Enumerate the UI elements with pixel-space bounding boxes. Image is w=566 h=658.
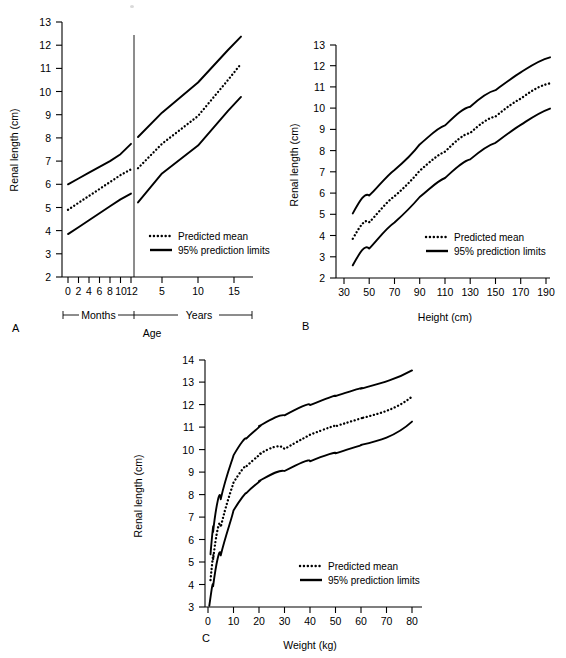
panel-b-svg: Renal length (cm) 2 3 4 5 6 7 8 9 10 11 … [280, 0, 566, 340]
panel-b-xtick: 150 [487, 286, 505, 298]
panel-c-ytick: 7 [188, 511, 194, 523]
panel-c-x-ticks [208, 607, 412, 613]
panel-b-letter: B [302, 320, 310, 332]
panel-a-ytick: 6 [45, 178, 51, 190]
panel-c-ytick: 3 [188, 601, 194, 613]
panel-a-ytick: 5 [45, 202, 51, 214]
panel-c-legend: Predicted mean 95% prediction limits [300, 561, 420, 586]
panel-c-y-ticks [199, 360, 205, 607]
panel-a-ytick: 2 [45, 271, 51, 283]
panel-b-xtick: 170 [512, 286, 530, 298]
panel-c-xtick: 70 [381, 615, 393, 627]
panel-b-ytick: 2 [319, 272, 325, 284]
panel-c-ytick: 8 [188, 489, 194, 501]
panel-a-y-tick-labels: 2 3 4 5 6 7 8 9 10 11 12 13 [39, 16, 51, 283]
panel-a-years-label: Years [186, 309, 212, 321]
panel-c-ytick: 12 [182, 399, 194, 411]
panel-a-legend-limits-label: 95% prediction limits [178, 245, 270, 256]
panel-c-xtick: 60 [355, 615, 367, 627]
panel-b-predicted-mean [353, 83, 550, 239]
panel-a-letter: A [12, 322, 20, 334]
chart-panel-a: Renal length (cm) 2 3 4 5 6 7 8 9 10 11 … [0, 0, 290, 340]
panel-a-ytick: 9 [45, 109, 51, 121]
panel-a-ytick: 7 [45, 155, 51, 167]
panel-b-legend-limits-label: 95% prediction limits [454, 246, 546, 257]
panel-c-ytick: 4 [188, 579, 194, 591]
panel-a-x-ticks [68, 277, 234, 283]
panel-b-xtick: 50 [363, 286, 375, 298]
panel-b-ytick: 9 [319, 123, 325, 135]
panel-c-ytick: 6 [188, 534, 194, 546]
panel-b-ytick: 10 [313, 102, 325, 114]
panel-a-lower-limit-months [68, 194, 131, 235]
chart-panel-c: Renal length (cm) 3 4 5 6 7 8 9 10 11 12… [120, 336, 460, 658]
panel-b-xtick: 70 [389, 286, 401, 298]
panel-a-xtick-month: 2 [76, 285, 82, 297]
panel-b-ytick: 5 [319, 208, 325, 220]
panel-c-xtick: 80 [406, 615, 418, 627]
panel-a-legend: Predicted mean 95% prediction limits [150, 231, 270, 256]
panel-c-y-axis-label: Renal length (cm) [132, 455, 144, 538]
panel-c-ytick: 13 [182, 376, 194, 388]
panel-b-xtick: 190 [537, 286, 555, 298]
panel-b-y-ticks [330, 45, 336, 278]
panel-c-xtick: 30 [279, 615, 291, 627]
panel-c-ytick: 14 [182, 354, 194, 366]
panel-a-upper-limit-months [68, 144, 131, 185]
panel-c-y-tick-labels: 3 4 5 6 7 8 9 10 11 12 13 14 [182, 354, 194, 613]
panel-b-x-tick-labels: 30 50 70 90 110 130 150 170 190 [338, 286, 555, 298]
panel-c-legend-mean-label: Predicted mean [328, 561, 398, 572]
panel-c-ytick: 10 [182, 444, 194, 456]
panel-b-xtick: 90 [414, 286, 426, 298]
panel-a-svg: Renal length (cm) 2 3 4 5 6 7 8 9 10 11 … [0, 0, 290, 340]
panel-c-x-axis-label: Weight (kg) [283, 639, 337, 651]
panel-b-ytick: 7 [319, 166, 325, 178]
panel-c-svg: Renal length (cm) 3 4 5 6 7 8 9 10 11 12… [120, 336, 460, 658]
panel-c-xtick: 0 [205, 615, 211, 627]
panel-c-upper-limit [211, 370, 413, 554]
panel-a-ytick: 13 [39, 16, 51, 28]
panel-a-xtick-month: 12 [126, 285, 138, 297]
panel-a-xtick-year: 5 [159, 285, 165, 297]
panel-c-xtick: 20 [253, 615, 265, 627]
panel-a-xtick-month: 4 [86, 285, 92, 297]
panel-a-y-axis-label: Renal length (cm) [8, 109, 20, 192]
panel-b-ytick: 8 [319, 145, 325, 157]
panel-a-xtick-year: 15 [228, 285, 240, 297]
panel-a-xtick-month: 0 [65, 285, 71, 297]
chart-panel-b: Renal length (cm) 2 3 4 5 6 7 8 9 10 11 … [280, 0, 566, 340]
panel-b-ytick: 3 [319, 251, 325, 263]
panel-b-legend-mean-label: Predicted mean [454, 232, 524, 243]
panel-c-x-tick-labels: 0 10 20 30 40 50 60 70 80 [205, 615, 418, 627]
panel-a-lower-limit-years [138, 97, 241, 202]
panel-a-ytick: 4 [45, 225, 51, 237]
panel-a-ytick: 12 [39, 39, 51, 51]
panel-c-xtick: 10 [228, 615, 240, 627]
panel-b-y-tick-labels: 2 3 4 5 6 7 8 9 10 11 12 13 [313, 39, 325, 284]
panel-c-letter: C [202, 632, 210, 644]
panel-a-legend-mean-label: Predicted mean [178, 231, 248, 242]
panel-a-months-label: Months [81, 309, 115, 321]
panel-b-x-axis-label: Height (cm) [418, 311, 472, 323]
panel-b-x-ticks [344, 278, 546, 284]
panel-b-ytick: 4 [319, 230, 325, 242]
panel-a-xtick-month: 8 [107, 285, 113, 297]
panel-a-ytick: 11 [40, 62, 51, 74]
panel-b-y-axis-label: Renal length (cm) [288, 124, 300, 207]
panel-b-legend: Predicted mean 95% prediction limits [426, 232, 546, 257]
panel-b-ytick: 11 [314, 81, 325, 93]
panel-c-predicted-mean [211, 397, 413, 580]
panel-a-ytick: 3 [45, 248, 51, 260]
panel-a-xtick-year: 10 [192, 285, 204, 297]
panel-a-ytick: 10 [39, 86, 51, 98]
panel-c-xtick: 40 [304, 615, 316, 627]
panel-c-ytick: 11 [183, 421, 194, 433]
panel-b-xtick: 30 [338, 286, 350, 298]
panel-b-ytick: 12 [313, 60, 325, 72]
panel-c-legend-limits-label: 95% prediction limits [328, 575, 420, 586]
panel-a-predicted-mean-months [68, 169, 131, 210]
panel-b-upper-limit [353, 57, 550, 213]
panel-c-ytick: 5 [188, 556, 194, 568]
panel-c-ytick: 9 [188, 466, 194, 478]
panel-b-ytick: 6 [319, 187, 325, 199]
